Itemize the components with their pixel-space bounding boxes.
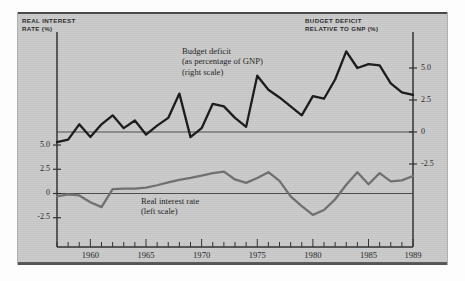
zero-lines-group <box>57 132 413 194</box>
series-group <box>57 51 413 214</box>
chart-canvas <box>0 0 465 281</box>
left-axis-tick-neg2_5: -2.5 <box>17 212 50 221</box>
left-axis-tick-0: 0 <box>17 188 50 197</box>
x-axis-tick-1975: 1975 <box>238 250 276 260</box>
right-axis-tick-2_5: 2.5 <box>421 95 431 104</box>
tick-group <box>53 68 417 247</box>
x-axis-tick-1985: 1985 <box>350 250 388 260</box>
x-axis-tick-1960: 1960 <box>71 250 109 260</box>
left-axis-tick-2_5: 2.5 <box>17 164 50 173</box>
x-axis-tick-1989: 1989 <box>394 250 432 260</box>
right-axis-tick-0: 0 <box>421 127 425 136</box>
series-budget-deficit <box>57 51 413 142</box>
right-axis-tick-neg2_5: -2.5 <box>421 159 434 168</box>
x-axis-tick-1970: 1970 <box>183 250 221 260</box>
left-axis-tick-5_0: 5.0 <box>17 140 50 149</box>
figure-root: REAL INTEREST RATE (%) BUDGET DEFICIT RE… <box>0 0 465 281</box>
x-axis-tick-1965: 1965 <box>127 250 165 260</box>
x-axis-tick-1980: 1980 <box>294 250 332 260</box>
axes-group <box>57 32 413 247</box>
right-axis-tick-5_0: 5.0 <box>421 63 431 72</box>
